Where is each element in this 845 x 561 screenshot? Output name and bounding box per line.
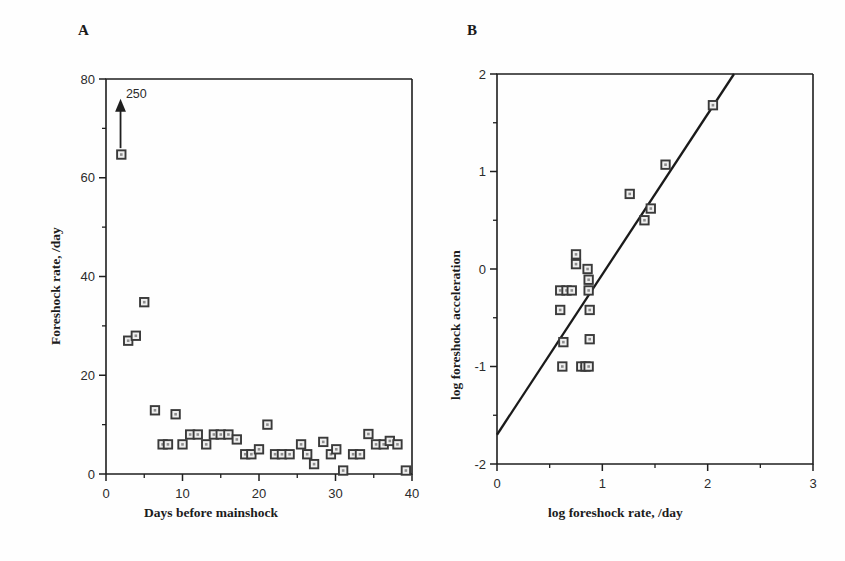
- data-point-core: [559, 289, 562, 292]
- data-point-core: [382, 443, 385, 446]
- data-point-core: [561, 365, 564, 368]
- data-point-core: [127, 339, 130, 342]
- data-point-core: [649, 207, 652, 210]
- x-tick-label: 30: [328, 486, 342, 500]
- y-tick-label: 1: [479, 164, 486, 179]
- data-point-core: [375, 443, 378, 446]
- data-point-core: [167, 443, 170, 446]
- data-point-core: [313, 463, 316, 466]
- data-point-core: [219, 433, 222, 436]
- y-tick-label: 60: [81, 170, 95, 185]
- annotation-label: 250: [126, 87, 147, 101]
- x-tick-label: 20: [252, 486, 266, 500]
- data-point-core: [359, 453, 362, 456]
- panel-b: B -2-10120123 log foreshock rate, /day l…: [430, 0, 845, 561]
- data-point-core: [244, 453, 247, 456]
- data-point-core: [587, 289, 590, 292]
- x-tick-label: 0: [102, 486, 109, 500]
- axis-left-top: [497, 74, 813, 464]
- data-point-core: [628, 193, 631, 196]
- data-point-core: [143, 301, 146, 304]
- data-point-core: [352, 453, 355, 456]
- axis-bottom-right: [497, 74, 813, 464]
- annotation-arrow-head: [115, 99, 126, 112]
- data-point-core: [575, 253, 578, 256]
- data-point-core: [181, 443, 184, 446]
- y-tick-label: -1: [474, 359, 486, 374]
- data-point-core: [189, 433, 192, 436]
- data-point-core: [274, 453, 277, 456]
- y-tick-label: 0: [479, 262, 486, 277]
- data-point-core: [135, 334, 138, 337]
- data-point-core: [575, 263, 578, 266]
- data-point-core: [120, 153, 123, 156]
- panel-b-x-axis-title: log foreshock rate, /day: [548, 505, 683, 521]
- data-point-core: [306, 453, 309, 456]
- x-tick-label: 40: [405, 486, 419, 500]
- x-tick-label: 3: [809, 476, 816, 491]
- data-point-core: [559, 309, 562, 312]
- panel-a-y-axis-title: Foreshock rate, /day: [48, 227, 64, 345]
- annotation-group: 250: [115, 87, 147, 148]
- panel-a: A 020406080010203040250 Days before main…: [0, 0, 430, 561]
- axis-frame: [497, 74, 813, 464]
- data-point-core: [266, 423, 269, 426]
- y-axis-ticks: -2-1012: [474, 67, 497, 472]
- y-tick-label: 80: [81, 72, 95, 87]
- x-tick-label: 2: [704, 476, 711, 491]
- data-point-core: [227, 433, 230, 436]
- data-point-core: [335, 448, 338, 451]
- data-point-core: [587, 365, 590, 368]
- data-point-core: [586, 268, 589, 271]
- x-tick-label: 0: [493, 476, 500, 491]
- x-tick-label: 1: [599, 476, 606, 491]
- data-point-core: [405, 469, 408, 472]
- data-point-core: [664, 163, 667, 166]
- data-point-core: [322, 441, 325, 444]
- y-tick-label: 20: [81, 368, 95, 383]
- regression-line: [497, 74, 734, 435]
- panel-a-x-axis-title: Days before mainshock: [144, 505, 278, 521]
- data-point-core: [389, 440, 392, 443]
- panel-a-plot: 020406080010203040250: [0, 0, 430, 500]
- data-point-core: [300, 443, 303, 446]
- data-point-core: [205, 443, 208, 446]
- data-point-core: [570, 289, 573, 292]
- x-axis-ticks: 0123: [493, 464, 816, 491]
- y-axis-ticks: 020406080: [81, 72, 106, 482]
- panel-b-plot: -2-10120123: [430, 0, 845, 500]
- data-point-core: [712, 104, 715, 107]
- data-point-core: [250, 453, 253, 456]
- data-point-core: [236, 438, 239, 441]
- data-point-core: [288, 453, 291, 456]
- data-point-core: [588, 309, 591, 312]
- figure-page: A 020406080010203040250 Days before main…: [0, 0, 845, 561]
- data-point-core: [643, 219, 646, 222]
- x-axis-ticks: 010203040: [102, 474, 419, 500]
- y-tick-label: 2: [479, 67, 486, 82]
- data-point-core: [587, 278, 590, 281]
- data-point-core: [588, 338, 591, 341]
- data-points: [117, 150, 410, 474]
- data-point-core: [342, 469, 345, 472]
- data-point-core: [367, 433, 370, 436]
- data-point-core: [281, 453, 284, 456]
- data-points: [556, 101, 717, 371]
- data-point-core: [396, 443, 399, 446]
- data-point-core: [213, 433, 216, 436]
- y-tick-label: 0: [88, 467, 95, 482]
- data-point-core: [154, 409, 157, 412]
- data-point-core: [562, 341, 565, 344]
- y-tick-label: 40: [81, 269, 95, 284]
- data-point-core: [197, 433, 200, 436]
- data-point-core: [174, 413, 177, 416]
- x-tick-label: 10: [175, 486, 189, 500]
- panel-b-y-axis-title: log foreshock acceleration: [448, 250, 464, 400]
- y-tick-label: -2: [474, 457, 486, 472]
- data-point-core: [258, 448, 261, 451]
